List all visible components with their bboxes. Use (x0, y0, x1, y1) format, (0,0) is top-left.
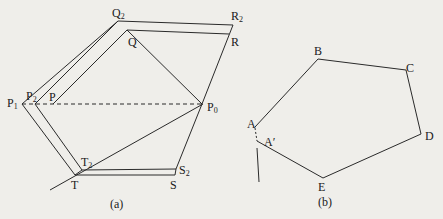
label-d: D (425, 129, 434, 143)
edge-d-e (323, 134, 421, 178)
edge-p2-q2 (35, 21, 118, 104)
edge-a-b (255, 59, 318, 127)
label-c: C (406, 61, 414, 75)
label-a: A (247, 117, 256, 131)
label-p1: P1 (7, 96, 18, 111)
edge-q-p0 (127, 30, 202, 104)
figure-a: Q2 Q R2 R P1 P2 P P0 T2 T S2 S (a) (7, 6, 243, 211)
geometry-diagram: Q2 Q R2 R P1 P2 P P0 T2 T S2 S (a) A A′ … (0, 0, 443, 219)
edge-r2-p0 (202, 25, 233, 104)
diagram-canvas: Q2 Q R2 R P1 P2 P P0 T2 T S2 S (a) A A′ … (0, 0, 443, 219)
edge-p2-t2 (35, 104, 82, 170)
edge-b-c (318, 59, 406, 70)
edge-t2-s2 (82, 169, 176, 170)
label-p: P (49, 90, 56, 104)
label-p2: P2 (26, 89, 37, 104)
label-q2: Q2 (112, 6, 125, 21)
edge-s-s2 (175, 169, 176, 175)
label-q: Q (128, 35, 137, 49)
label-s2: S2 (179, 163, 190, 178)
edge-q2-r2 (118, 21, 233, 25)
label-r: R (231, 35, 239, 49)
label-a-prime: A′ (264, 135, 276, 149)
caption-b: (b) (318, 195, 332, 209)
stroke-below-a (257, 148, 259, 182)
label-b: B (314, 44, 322, 58)
label-t: T (71, 178, 79, 192)
label-t2: T2 (81, 155, 92, 170)
figure-b: A A′ B C D E (b) (247, 44, 434, 209)
label-p0: P0 (207, 100, 218, 115)
edge-q-r (127, 30, 229, 34)
label-r2: R2 (231, 9, 243, 24)
edge-p1-t (22, 104, 75, 175)
label-e: E (318, 180, 325, 194)
edge-c-d (406, 70, 421, 134)
edge-p0-s2 (176, 104, 202, 169)
edge-p1-q2 (22, 21, 118, 104)
label-s: S (170, 178, 177, 192)
caption-a: (a) (110, 197, 123, 211)
